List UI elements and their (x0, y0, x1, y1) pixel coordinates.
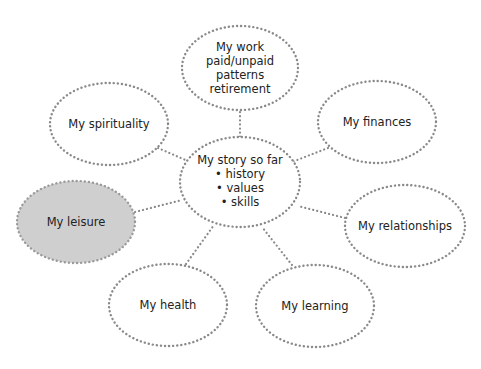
connector-spirituality (158, 148, 190, 162)
node-leisure-label: My leisure (47, 215, 106, 229)
node-learning: My learning (256, 265, 374, 347)
node-center-bullet-values: • values (216, 181, 264, 195)
node-learning-label: My learning (281, 299, 348, 313)
connector-leisure (135, 200, 182, 212)
node-work-line-1: My work (216, 40, 265, 54)
mind-map: My work paid/unpaid patterns retirement … (0, 0, 481, 369)
node-spirituality-label: My spirituality (68, 117, 150, 131)
connector-relationships (298, 206, 345, 218)
node-spirituality: My spirituality (50, 83, 168, 165)
node-relationships-label: My relationships (358, 219, 452, 233)
node-work: My work paid/unpaid patterns retirement (182, 26, 298, 110)
connector-learning (262, 227, 292, 265)
node-work-line-2: paid/unpaid (206, 54, 274, 68)
node-center-bullet-history: • history (215, 167, 265, 181)
connector-health (186, 225, 214, 264)
node-finances-label: My finances (343, 115, 412, 129)
node-health: My health (109, 264, 227, 346)
node-work-line-4: retirement (210, 82, 271, 96)
node-center-title: My story so far (197, 153, 283, 167)
node-finances: My finances (318, 81, 436, 163)
connector-finances (292, 148, 328, 162)
node-center-bullet-skills: • skills (221, 195, 260, 209)
node-center: My story so far • history • values • ski… (180, 137, 300, 227)
node-relationships: My relationships (345, 185, 465, 267)
node-work-line-3: patterns (216, 68, 264, 82)
node-leisure: My leisure (17, 181, 135, 263)
node-health-label: My health (140, 298, 197, 312)
